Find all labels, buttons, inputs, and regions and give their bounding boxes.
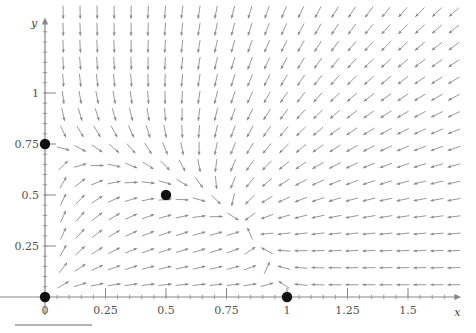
field-arrow	[130, 74, 133, 87]
field-arrow	[379, 249, 392, 252]
field-arrow	[297, 75, 304, 86]
field-arrow	[430, 216, 443, 219]
field-arrow	[211, 195, 220, 204]
field-arrow	[264, 6, 269, 18]
field-arrow	[92, 230, 102, 238]
field-arrow	[108, 283, 121, 286]
field-arrow	[146, 125, 150, 137]
field-arrow	[79, 57, 82, 70]
y-tick-label: 1	[32, 87, 39, 100]
field-arrow	[362, 232, 375, 235]
field-arrow	[281, 40, 287, 52]
field-arrow	[380, 146, 392, 151]
field-arrow	[346, 215, 359, 218]
field-arrow	[247, 109, 253, 121]
field-arrow	[163, 23, 166, 36]
field-arrow	[197, 91, 200, 104]
field-arrow	[295, 283, 308, 286]
field-arrow	[380, 163, 392, 168]
field-arrow	[298, 24, 304, 36]
field-arrow	[91, 164, 104, 167]
field-arrow	[280, 109, 288, 119]
field-arrow	[346, 145, 357, 151]
field-arrow	[448, 60, 459, 67]
field-arrow	[245, 213, 256, 221]
field-arrow	[396, 266, 409, 269]
field-arrow	[348, 24, 356, 34]
field-arrow	[231, 57, 235, 69]
field-arrow	[329, 145, 340, 152]
x-axis-arrowhead	[454, 294, 461, 300]
field-arrow	[130, 91, 133, 104]
field-arrow	[164, 108, 167, 121]
field-arrow	[264, 40, 269, 52]
field-arrow	[332, 7, 339, 18]
field-arrow	[75, 264, 86, 271]
field-arrow	[311, 283, 324, 286]
field-arrow	[431, 112, 443, 118]
tick-label-layer: 00.250.50.7511.251.50.250.50.751xy	[15, 17, 462, 319]
field-arrow	[108, 265, 120, 270]
field-arrow	[414, 94, 425, 101]
field-arrow	[62, 23, 65, 36]
field-arrow	[96, 6, 99, 19]
field-arrow	[413, 216, 426, 219]
field-arrow	[447, 249, 460, 252]
field-arrow	[447, 216, 460, 219]
field-arrow	[227, 283, 240, 286]
field-arrow	[210, 265, 223, 269]
field-arrow	[76, 229, 85, 239]
field-arrow	[363, 146, 375, 152]
field-arrow	[246, 178, 254, 188]
critical-points-layer	[40, 139, 292, 302]
field-arrow	[382, 7, 390, 17]
field-arrow	[111, 126, 117, 137]
critical-point	[40, 292, 50, 302]
field-arrow	[431, 129, 443, 134]
field-arrow	[414, 198, 427, 201]
field-arrow	[381, 59, 391, 68]
field-arrow	[380, 111, 391, 118]
field-arrow	[197, 57, 200, 70]
field-arrow	[244, 265, 256, 270]
field-arrow	[365, 7, 373, 17]
field-arrow	[398, 42, 408, 51]
field-arrow	[364, 59, 373, 68]
field-arrow	[278, 233, 291, 236]
field-arrow	[210, 231, 223, 235]
field-arrow	[430, 283, 443, 286]
field-arrow	[295, 266, 308, 269]
field-arrow	[348, 59, 357, 69]
field-arrow	[247, 57, 252, 69]
field-arrow	[281, 58, 287, 69]
field-arrow	[76, 195, 85, 204]
field-arrow	[312, 233, 325, 236]
field-arrow	[108, 180, 121, 184]
field-arrow	[245, 247, 256, 254]
field-arrow	[147, 74, 150, 87]
field-arrow	[363, 216, 376, 219]
field-arrow	[432, 60, 443, 68]
x-tick-label: 0.5	[157, 304, 175, 317]
field-arrow	[231, 40, 235, 53]
field-arrow	[142, 283, 155, 286]
field-arrow	[279, 144, 288, 153]
field-arrow	[214, 91, 218, 104]
field-arrow	[214, 57, 218, 70]
field-arrow	[146, 23, 149, 36]
field-arrow	[263, 143, 271, 153]
field-arrow	[125, 265, 137, 269]
field-arrow	[181, 125, 184, 138]
field-arrow	[279, 161, 289, 169]
field-arrow	[228, 213, 239, 220]
field-arrow	[261, 232, 274, 235]
field-arrow	[414, 181, 427, 185]
field-arrow	[449, 25, 459, 33]
field-arrow	[415, 42, 425, 50]
field-arrow	[382, 24, 391, 34]
field-arrow	[430, 232, 443, 235]
field-arrow	[227, 231, 239, 235]
x-tick-label: 0.25	[93, 304, 118, 317]
field-arrow	[113, 40, 116, 53]
field-arrow	[397, 129, 409, 135]
